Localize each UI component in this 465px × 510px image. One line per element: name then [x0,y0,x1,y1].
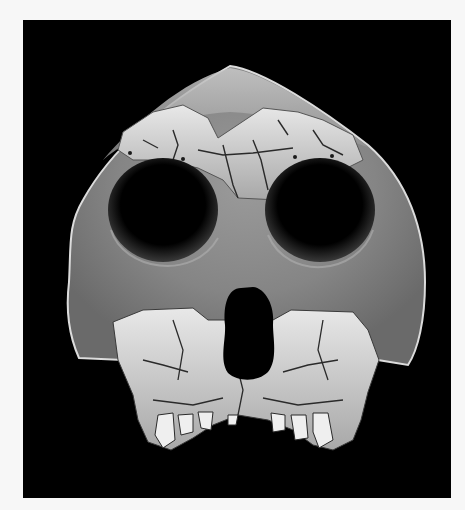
left-orbit [108,158,218,262]
right-orbit [265,158,375,262]
skull-illustration [23,20,451,498]
skull-photograph [23,20,451,498]
nasal-aperture [223,287,274,380]
